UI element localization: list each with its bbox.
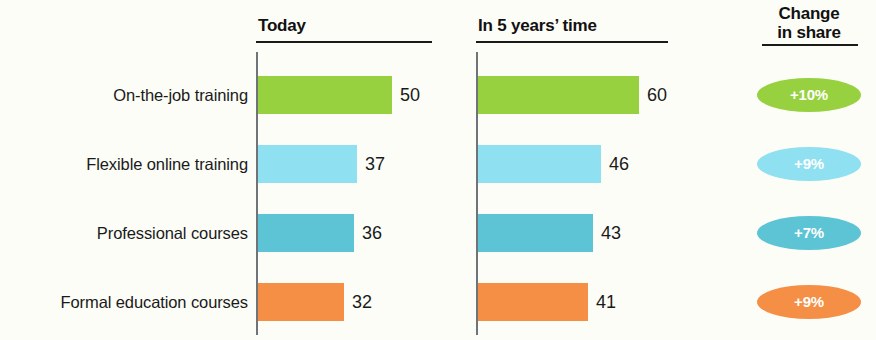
bar-value-future: 46 xyxy=(609,145,629,183)
bar-today xyxy=(258,214,354,252)
bar-value-future: 41 xyxy=(596,283,616,321)
bar-future xyxy=(478,76,639,114)
grouped-bar-chart: Today In 5 years’ time Changein share On… xyxy=(0,0,876,340)
bar-value-today: 32 xyxy=(352,283,372,321)
bar-value-future: 60 xyxy=(647,76,667,114)
bar-today xyxy=(258,145,357,183)
row-label-cell: Professional courses xyxy=(0,224,248,246)
change-header-line-2: in share xyxy=(777,23,841,42)
bar-future xyxy=(478,214,593,252)
bar-value-today: 50 xyxy=(400,76,420,114)
row-label-cell: On-the-job training xyxy=(0,86,248,108)
change-in-share-pill: +9% xyxy=(757,147,861,181)
column-rule-change xyxy=(762,44,858,46)
bar-value-today: 37 xyxy=(365,145,385,183)
column-rule-future xyxy=(476,41,668,43)
column-header-change-in-share: Changein share xyxy=(745,4,873,42)
change-in-share-pill: +9% xyxy=(757,285,861,319)
change-in-share-pill: +7% xyxy=(757,216,861,250)
bar-future xyxy=(478,145,601,183)
category-label: On-the-job training xyxy=(0,86,248,105)
row-label-cell: Flexible online training xyxy=(0,155,248,177)
category-label: Professional courses xyxy=(0,224,248,243)
column-header-today: Today xyxy=(258,16,306,36)
bar-value-today: 36 xyxy=(362,214,382,252)
bar-today xyxy=(258,76,392,114)
bar-future xyxy=(478,283,588,321)
change-header-line-1: Change xyxy=(778,4,839,23)
bar-today xyxy=(258,283,344,321)
bar-value-future: 43 xyxy=(601,214,621,252)
row-label-cell: Formal education courses xyxy=(0,293,248,315)
category-label: Formal education courses xyxy=(0,293,248,312)
category-label: Flexible online training xyxy=(0,155,248,174)
column-header-future: In 5 years’ time xyxy=(478,16,597,36)
column-rule-today xyxy=(256,41,432,43)
change-in-share-pill: +10% xyxy=(757,78,861,112)
